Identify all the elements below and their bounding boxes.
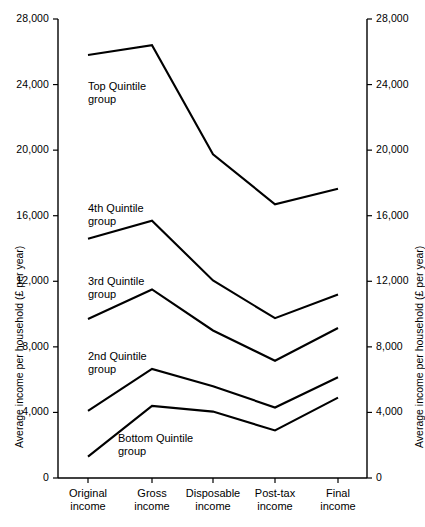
y-axis-tick-label: 8,000	[376, 341, 403, 352]
y-axis-tick-label: 24,000	[0, 79, 49, 90]
series-annotation-label: 4th Quintile group	[88, 202, 144, 227]
y-axis-tick-label: 24,000	[376, 79, 409, 90]
series-annotation-label: Bottom Quintile group	[118, 432, 193, 457]
y-axis-tick-label: 16,000	[376, 210, 409, 221]
y-axis-tick-label: 28,000	[0, 13, 49, 24]
y-axis-tick-label: 12,000	[376, 275, 409, 286]
left-axis-ticks	[53, 19, 58, 478]
series-line	[88, 369, 338, 411]
y-axis-tick-label: 16,000	[0, 210, 49, 221]
bottom-axis-ticks	[88, 478, 338, 483]
right-axis-ticks	[367, 19, 372, 478]
x-axis-tick-label: Final income	[293, 487, 383, 512]
series-annotation-label: 3rd Quintile group	[88, 275, 144, 300]
series-annotation-label: 2nd Quintile group	[88, 350, 147, 375]
y-axis-tick-label: 4,000	[376, 406, 403, 417]
right-axis-group	[367, 19, 372, 478]
series-lines	[88, 45, 338, 456]
y-axis-tick-label: 20,000	[0, 144, 49, 155]
y-axis-tick-label: 28,000	[376, 13, 409, 24]
y-axis-tick-label: 20,000	[376, 144, 409, 155]
bottom-axis-group	[58, 478, 367, 483]
y-axis-tick-label: 0	[376, 472, 382, 483]
y-axis-right-title: Average income per household (£ per year…	[414, 246, 425, 448]
y-axis-tick-label: 0	[0, 472, 49, 483]
left-axis-group	[53, 19, 58, 478]
series-annotation-label: Top Quintile group	[88, 80, 146, 105]
series-line	[88, 221, 338, 319]
series-line	[88, 45, 338, 204]
y-axis-left-title: Average income per household (£ per year…	[14, 246, 25, 448]
